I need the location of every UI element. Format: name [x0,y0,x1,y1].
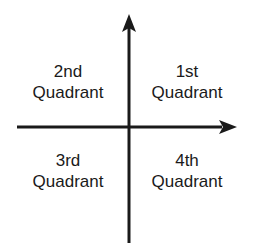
quadrant-word-2nd: Quadrant [13,82,123,103]
coordinate-axes [0,0,253,249]
quadrant-diagram: 2nd Quadrant 1st Quadrant 3rd Quadrant 4… [0,0,253,249]
quadrant-word-3rd: Quadrant [13,171,123,192]
quadrant-label-4th: 4th Quadrant [132,150,242,192]
quadrant-label-3rd: 3rd Quadrant [13,150,123,192]
quadrant-word-1st: Quadrant [132,82,242,103]
quadrant-word-4th: Quadrant [132,171,242,192]
quadrant-ordinal-1st: 1st [132,61,242,82]
quadrant-ordinal-4th: 4th [132,150,242,171]
quadrant-label-2nd: 2nd Quadrant [13,61,123,103]
quadrant-label-1st: 1st Quadrant [132,61,242,103]
quadrant-ordinal-3rd: 3rd [13,150,123,171]
quadrant-ordinal-2nd: 2nd [13,61,123,82]
